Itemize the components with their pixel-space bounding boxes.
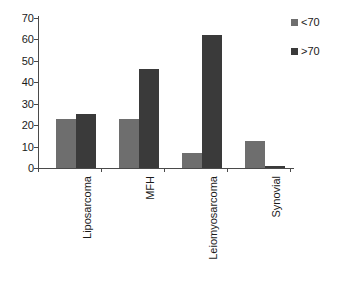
y-axis-tick-label: 10	[8, 142, 34, 153]
bar-0-2	[182, 153, 202, 168]
y-axis-tick-label: 70	[8, 13, 34, 24]
bar-chart: 010203040506070 LiposarcomaMFHLeiomyosar…	[0, 0, 337, 291]
bar-1-3	[265, 166, 285, 168]
y-axis-tick-label: 30	[8, 99, 34, 110]
x-axis-tick	[101, 168, 102, 172]
legend-item-0[interactable]: <70	[291, 16, 337, 28]
x-axis-category-label: Liposarcoma	[82, 176, 93, 239]
bar-0-1	[119, 119, 139, 168]
bar-1-1	[139, 69, 159, 168]
bar-0-0	[56, 119, 76, 168]
legend-swatch-icon	[291, 48, 298, 55]
y-axis-tick-label: 50	[8, 56, 34, 67]
bar-0-3	[245, 141, 265, 168]
y-axis-tick-label: 60	[8, 34, 34, 45]
x-axis-category-label: MFH	[145, 176, 156, 200]
x-axis-tick	[38, 168, 39, 172]
y-axis-tick-label: 20	[8, 120, 34, 131]
y-axis-tick-label: 0	[8, 163, 34, 174]
legend-swatch-icon	[291, 19, 298, 26]
chart-legend: <70>70	[291, 16, 337, 74]
legend-label: <70	[301, 17, 320, 28]
x-axis-tick	[290, 168, 291, 172]
x-axis-line	[38, 168, 294, 169]
x-axis-category-label: Synovial	[271, 176, 282, 218]
legend-label: >70	[301, 46, 320, 57]
x-axis-category-label: Leiomyosarcoma	[208, 176, 219, 260]
x-axis-tick	[227, 168, 228, 172]
x-axis-tick	[164, 168, 165, 172]
plot-area	[38, 18, 290, 168]
y-axis-tick-label: 40	[8, 77, 34, 88]
bar-1-0	[76, 114, 96, 168]
bar-1-2	[202, 35, 222, 168]
legend-item-1[interactable]: >70	[291, 45, 337, 57]
